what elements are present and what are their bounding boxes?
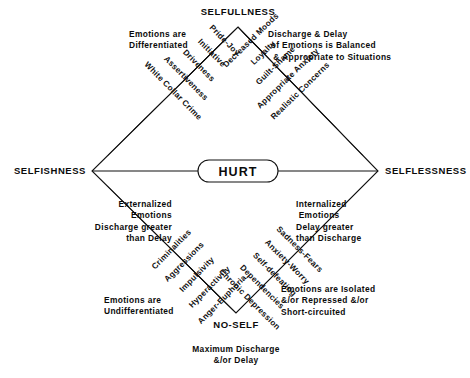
vertex-label-selfullness: SELFULLNESS (201, 6, 276, 17)
note-internalized-emotions: Internalized Emotions Delay greater than… (296, 199, 446, 245)
note-externalized-emotions: Externalized Emotions Discharge greater … (22, 199, 172, 245)
vertex-label-no-self: NO-SELF (213, 319, 259, 330)
note-discharge-delay-balanced: Discharge & Delay of Emotions is Balance… (268, 29, 391, 63)
hurt-center-label: HURT (218, 165, 257, 179)
vertex-label-selflessness: SELFLESSNESS (385, 165, 467, 176)
hurt-center-badge: HURT (198, 160, 278, 182)
vertex-label-selfishness: SELFISHNESS (14, 165, 86, 176)
note-emotions-differentiated: Emotions are Differentiated (129, 29, 188, 52)
note-emotions-isolated-repressed: Emotions are Isolated &/or Repressed &/o… (281, 284, 375, 318)
selfullness-no-self-diagram: HURT White Collar CrimeAssertivenessDriv… (0, 0, 470, 378)
diamond-diagram-canvas: HURT White Collar CrimeAssertivenessDriv… (0, 0, 470, 378)
note-emotions-undifferentiated: Emotions are Undifferentiated (104, 295, 174, 318)
note-maximum-discharge: Maximum Discharge &/or Delay (150, 344, 322, 367)
